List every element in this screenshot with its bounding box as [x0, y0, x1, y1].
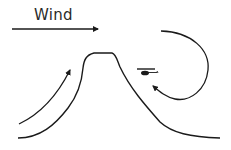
mountain-wave-diagram: Wind — [0, 0, 231, 150]
diagram-drawing — [0, 0, 231, 150]
helicopter-icon — [137, 69, 158, 75]
rotor-arrow-icon — [153, 31, 208, 99]
mountain-ridge — [18, 53, 220, 138]
